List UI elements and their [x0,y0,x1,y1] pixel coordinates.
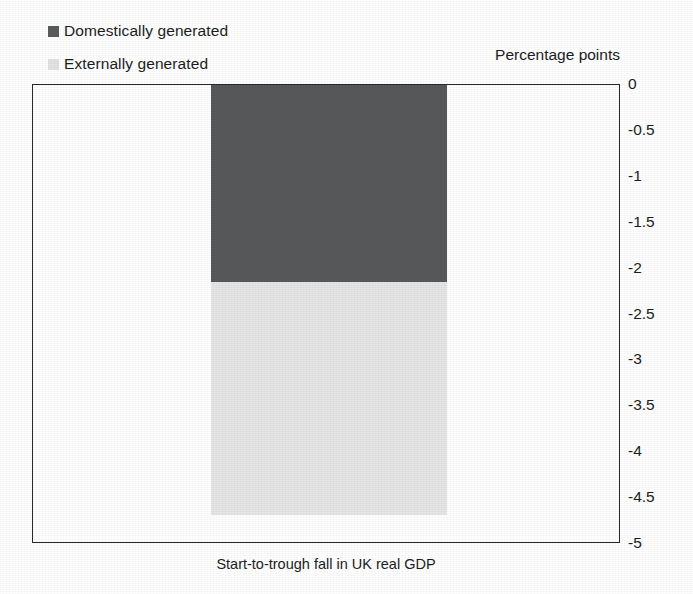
plot-inner [33,85,619,542]
bar-segment-domestically-generated [211,85,447,282]
y-axis-tick-label: -1 [628,168,642,184]
chart-figure: Domestically generated Externally genera… [0,0,693,594]
y-axis-tick-label: -3 [628,352,642,368]
legend-swatch-icon-externally-generated [48,59,59,70]
y-axis-tick-label: 0 [628,76,637,92]
bar-segment-externally-generated [211,282,447,514]
axis-unit-caption: Percentage points [495,46,620,64]
legend-item-domestically-generated: Domestically generated [48,18,348,44]
plot-area [32,84,620,543]
y-axis: 0-0.5-1-1.5-2-2.5-3-3.5-4-4.5-5 [628,84,690,543]
y-axis-tick-label: -4.5 [628,489,655,505]
y-axis-tick-label: -4 [628,443,642,459]
stacked-bar [211,85,447,515]
y-axis-tick-label: -3.5 [628,398,655,414]
y-axis-tick-label: -1.5 [628,214,655,230]
legend-label-domestically-generated: Domestically generated [64,22,228,40]
legend-swatch-icon-domestically-generated [48,26,59,37]
y-axis-tick-label: -5 [628,535,642,551]
legend-label-externally-generated: Externally generated [64,55,208,73]
chart-legend: Domestically generated Externally genera… [48,18,348,77]
y-axis-tick-label: -2 [628,260,642,276]
x-axis-caption: Start-to-trough fall in UK real GDP [32,556,620,572]
legend-item-externally-generated: Externally generated [48,51,348,77]
y-axis-tick-label: -2.5 [628,306,655,322]
y-axis-tick-label: -0.5 [628,122,655,138]
